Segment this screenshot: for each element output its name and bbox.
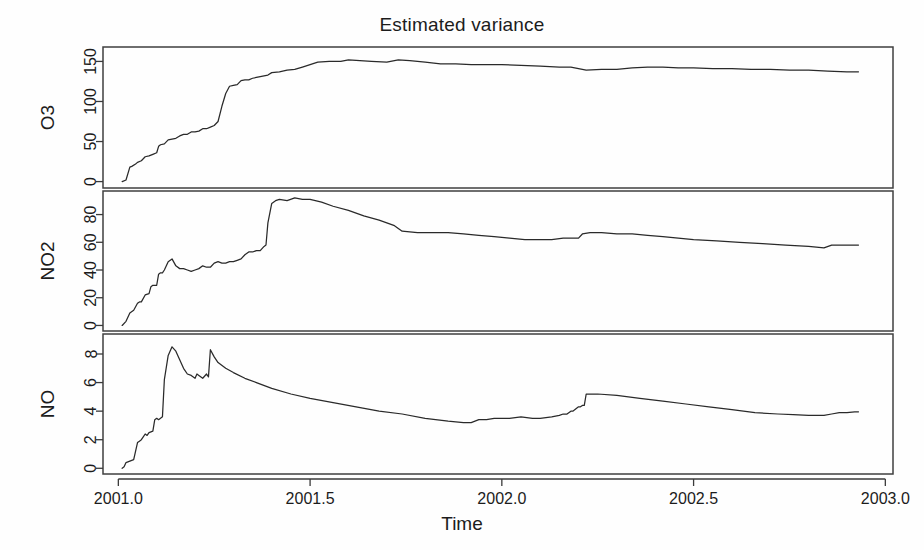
panels-group: 050100150O3020406080NO202468NO [37,47,894,474]
panel-no: 02468NO [37,334,894,474]
x-tick-label: 2001.5 [286,490,335,507]
panel-axis-label-no: NO [37,390,58,419]
multi-panel-timeseries-plot: 050100150O3020406080NO202468NO 2001.0200… [0,0,924,550]
series-line-o3 [122,60,858,182]
panel-no2: 020406080NO2 [37,191,894,331]
y-tick-label: 0 [83,177,100,186]
figure-root: Estimated variance 050100150O3020406080N… [0,0,924,550]
y-tick-label: 80 [83,206,100,224]
x-axis: 2001.02001.52002.02002.52003.0 [94,479,910,507]
y-tick-label: 50 [83,133,100,151]
series-line-no [122,347,858,468]
x-axis-title: Time [0,513,924,535]
y-tick-label: 20 [83,289,100,307]
y-tick-label: 40 [83,261,100,279]
panel-frame [103,191,893,331]
panel-frame [103,334,893,474]
y-tick-label: 0 [83,464,100,473]
y-tick-label: 150 [83,48,100,75]
y-tick-label: 2 [83,435,100,444]
x-tick-label: 2002.0 [477,490,526,507]
x-tick-label: 2003.0 [861,490,910,507]
x-tick-label: 2001.0 [94,490,143,507]
y-tick-label: 8 [83,349,100,358]
panel-axis-label-no2: NO2 [37,241,58,280]
panel-frame [103,47,893,188]
y-tick-label: 60 [83,233,100,251]
panel-axis-label-o3: O3 [37,105,58,130]
series-line-no2 [122,198,858,326]
panel-o3: 050100150O3 [37,47,894,188]
y-tick-label: 0 [83,321,100,330]
x-tick-label: 2002.5 [669,490,718,507]
y-tick-label: 6 [83,378,100,387]
y-tick-label: 4 [83,407,100,416]
y-tick-label: 100 [83,88,100,115]
